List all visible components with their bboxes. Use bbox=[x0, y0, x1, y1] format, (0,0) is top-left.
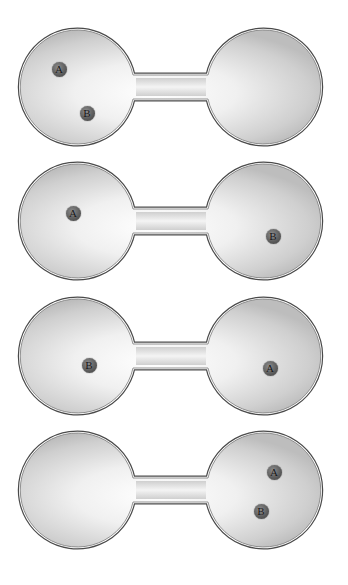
particle-b: B bbox=[254, 504, 269, 519]
particle-label: A bbox=[266, 363, 274, 374]
particle-a: A bbox=[52, 62, 67, 77]
particle-label: B bbox=[269, 231, 276, 242]
particle-label: A bbox=[69, 208, 77, 219]
particle-a: A bbox=[66, 206, 81, 221]
particle-label: A bbox=[270, 467, 278, 478]
connected-bulbs-graphic bbox=[0, 295, 348, 425]
connected-bulbs-graphic bbox=[0, 429, 348, 559]
connected-bulbs-graphic bbox=[0, 160, 348, 290]
particle-label: A bbox=[55, 64, 63, 75]
flask-panel-3: B A bbox=[0, 295, 348, 425]
connected-bulbs-graphic bbox=[0, 26, 348, 156]
particle-b: B bbox=[266, 229, 281, 244]
flask-panel-2: A B bbox=[0, 160, 348, 290]
particle-label: B bbox=[85, 360, 92, 371]
flask-panel-4: A B bbox=[0, 429, 348, 559]
particle-a: A bbox=[267, 465, 282, 480]
particle-label: B bbox=[83, 108, 90, 119]
particle-label: B bbox=[257, 506, 264, 517]
particle-a: A bbox=[263, 361, 278, 376]
particle-b: B bbox=[80, 106, 95, 121]
flask-panel-1: A B bbox=[0, 26, 348, 156]
particle-b: B bbox=[82, 358, 97, 373]
